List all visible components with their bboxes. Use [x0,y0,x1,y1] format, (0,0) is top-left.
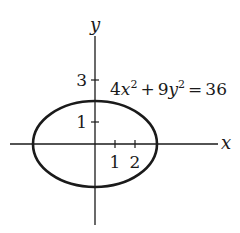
equation-label: 4x2+9y2=36 [110,78,227,99]
ellipse-diagram: 1 2 1 3 x y 4x2+9y2=36 [0,0,240,233]
x-axis-label: x [221,132,231,153]
x-tick-label-2: 2 [130,152,141,172]
y-axis-label: y [89,14,101,35]
x-tick-label-1: 1 [110,152,121,172]
y-tick-label-3: 3 [76,70,87,90]
y-tick-label-1: 1 [76,112,87,132]
